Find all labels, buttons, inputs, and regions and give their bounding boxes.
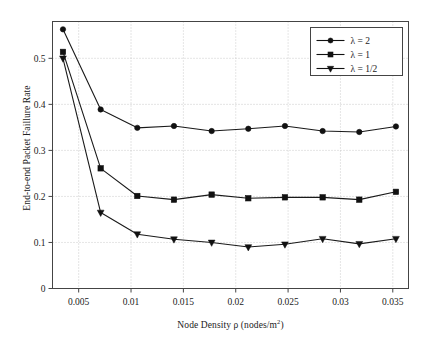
x-axis-title-main: Node Density ρ (nodes/m [177,320,277,330]
data-point-square-marker [171,197,176,202]
data-point-circle-marker [209,128,214,133]
x-tick-label: 0.035 [382,297,404,307]
data-point-circle-marker [393,124,398,129]
data-point-square-marker [393,189,398,194]
data-point-square-marker [209,192,214,197]
y-tick-label: 0.4 [34,100,46,110]
data-point-circle-marker [282,123,287,128]
legend-label: λ = 1/2 [351,64,378,74]
x-axis-title: Node Density ρ (nodes/m2) [52,318,409,330]
legend: λ = 2λ = 1λ = 1/2 [311,28,403,76]
data-point-circle-marker [60,27,65,32]
data-point-circle-marker [320,128,325,133]
y-tick-label: 0.2 [34,192,46,202]
data-point-circle-marker [171,123,176,128]
data-point-circle-marker [357,129,362,134]
x-tick-label: 0.03 [332,297,349,307]
x-tick-label: 0.02 [227,297,244,307]
data-point-circle-marker [328,38,333,43]
data-point-circle-marker [98,107,103,112]
chart-figure: 0.0050.010.0150.020.0250.030.03500.10.20… [0,0,433,339]
data-point-circle-marker [135,125,140,130]
data-point-square-marker [320,195,325,200]
data-point-square-marker [98,166,103,171]
x-axis-title-tail: ) [280,320,283,330]
y-tick-label: 0.3 [34,146,46,156]
data-point-square-marker [135,193,140,198]
data-point-square-marker [282,195,287,200]
x-tick-label: 0.01 [123,297,140,307]
legend-label: λ = 1 [351,50,371,60]
legend-label: λ = 2 [351,36,371,46]
data-point-square-marker [328,52,333,57]
x-tick-label: 0.015 [173,297,195,307]
x-tick-label: 0.005 [68,297,90,307]
data-point-square-marker [246,196,251,201]
y-tick-label: 0.1 [34,238,46,248]
y-tick-label: 0 [41,284,46,294]
data-point-circle-marker [246,126,251,131]
y-axis-title: End-to-end Packet Faillure Rate [22,48,32,248]
data-point-square-marker [60,49,65,54]
line-chart-canvas: 0.0050.010.0150.020.0250.030.03500.10.20… [0,0,433,339]
x-tick-label: 0.025 [277,297,299,307]
data-point-square-marker [357,197,362,202]
y-tick-label: 0.5 [34,54,46,64]
